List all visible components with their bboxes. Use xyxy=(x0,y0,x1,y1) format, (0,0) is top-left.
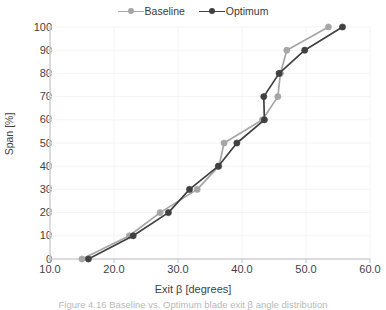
y-axis-label: Span [%] xyxy=(3,79,15,189)
figure-caption: Figure 4.16 Baseline vs. Optimum blade e… xyxy=(0,299,386,310)
x-tick-label: 40.0 xyxy=(219,264,265,275)
x-tick-label: 50.0 xyxy=(283,264,329,275)
plot-svg xyxy=(50,27,370,259)
x-tick-label: 60.0 xyxy=(347,264,386,275)
x-axis-label: Exit β [degrees] xyxy=(0,283,386,295)
x-tick-label: 30.0 xyxy=(155,264,201,275)
gridlines xyxy=(50,27,370,259)
data-point-baseline xyxy=(284,47,290,53)
data-point-optimum xyxy=(302,47,308,53)
data-point-optimum xyxy=(234,140,240,146)
legend-swatch-optimum xyxy=(199,6,225,16)
legend-marker-baseline xyxy=(128,8,134,14)
data-point-baseline xyxy=(194,186,200,192)
axis-lines xyxy=(46,27,370,263)
data-point-baseline xyxy=(79,256,85,262)
data-point-optimum xyxy=(261,117,267,123)
x-tick-label: 10.0 xyxy=(27,264,73,275)
legend-swatch-baseline xyxy=(118,6,144,16)
data-point-optimum xyxy=(130,233,136,239)
legend-item-baseline[interactable]: Baseline xyxy=(118,5,185,17)
data-point-optimum xyxy=(215,163,221,169)
data-point-baseline xyxy=(325,24,331,30)
data-point-baseline xyxy=(157,210,163,216)
legend-marker-optimum xyxy=(209,8,215,14)
data-point-optimum xyxy=(186,186,192,192)
legend-item-optimum[interactable]: Optimum xyxy=(199,5,269,17)
data-point-optimum xyxy=(165,210,171,216)
data-point-optimum xyxy=(339,24,345,30)
chart-legend: Baseline Optimum xyxy=(0,2,386,20)
data-point-optimum xyxy=(85,256,91,262)
x-tick-label: 20.0 xyxy=(91,264,137,275)
data-point-optimum xyxy=(261,94,267,100)
data-point-baseline xyxy=(221,140,227,146)
legend-label-optimum: Optimum xyxy=(226,5,269,17)
plot-area xyxy=(50,27,370,259)
data-point-optimum xyxy=(276,70,282,76)
data-point-baseline xyxy=(275,94,281,100)
legend-label-baseline: Baseline xyxy=(145,5,185,17)
